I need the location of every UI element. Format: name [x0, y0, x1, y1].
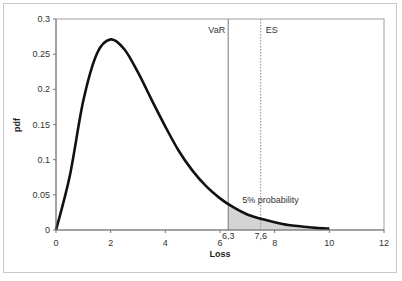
y-tick-label: 0	[45, 225, 50, 235]
x-tick-label: 0	[53, 238, 58, 248]
es-value-label: 7,6	[254, 231, 267, 241]
y-tick-label: 0.25	[32, 49, 50, 59]
es-label: ES	[266, 25, 278, 35]
y-tick-label: 0.15	[32, 120, 50, 130]
tail-shaded-area	[228, 204, 329, 230]
y-tick-label: 0.05	[32, 190, 50, 200]
plot-area: 024681012 00.050.10.150.20.250.3	[32, 14, 389, 248]
x-tick-label: 2	[108, 238, 113, 248]
tail-probability-label: 5% probability	[242, 195, 299, 205]
chart-svg: 024681012 00.050.10.150.20.250.3 VaR ES …	[0, 0, 402, 281]
var-label: VaR	[208, 25, 225, 35]
y-axis-title: pdf	[12, 117, 22, 132]
x-axis-title: Loss	[209, 249, 230, 259]
y-tick-label: 0.3	[37, 14, 50, 24]
y-tick-label: 0.2	[37, 84, 50, 94]
x-tick-label: 8	[272, 238, 277, 248]
var-value-label: 6,3	[222, 231, 235, 241]
y-tick-label: 0.1	[37, 155, 50, 165]
y-ticks: 00.050.10.150.20.250.3	[32, 14, 56, 235]
x-tick-label: 10	[324, 238, 334, 248]
x-tick-label: 12	[379, 238, 389, 248]
x-tick-label: 4	[163, 238, 168, 248]
